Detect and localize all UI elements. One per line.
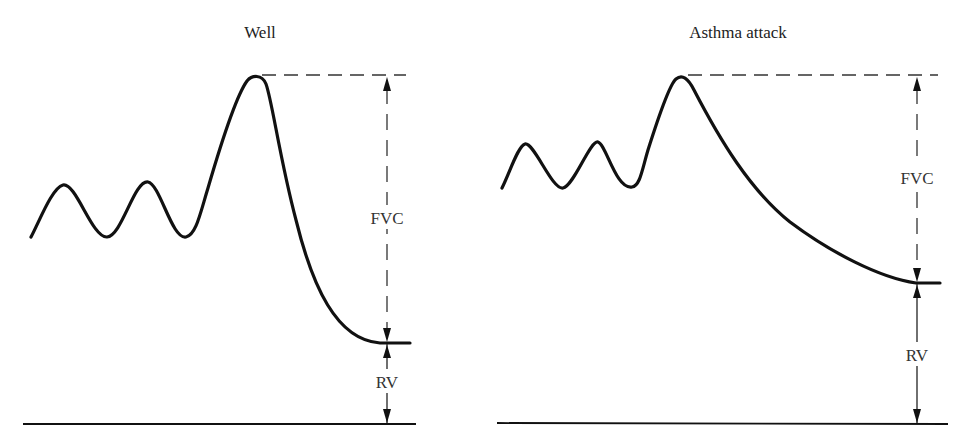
spirometry-diagram: Well FVC RV Asthma attack FVC xyxy=(0,0,967,448)
asthma-fvc-label: FVC xyxy=(900,169,933,188)
asthma-fvc-bottom-arrow-icon xyxy=(913,268,921,282)
asthma-baseline xyxy=(497,423,948,424)
well-breathing-curve xyxy=(31,76,410,343)
panel-asthma-attack: Asthma attack FVC RV xyxy=(497,23,948,424)
well-rv-label: RV xyxy=(376,373,399,392)
panel-title-well: Well xyxy=(244,23,276,42)
well-rv-top-arrow-icon xyxy=(383,345,391,358)
well-rv-bottom-arrow-icon xyxy=(383,409,391,423)
asthma-breathing-curve xyxy=(502,77,940,283)
asthma-rv-bottom-arrow-icon xyxy=(913,409,921,423)
well-fvc-top-arrow-icon xyxy=(383,77,391,91)
panel-well: Well FVC RV xyxy=(23,23,416,424)
asthma-rv-top-arrow-icon xyxy=(913,285,921,298)
well-fvc-bottom-arrow-icon xyxy=(383,328,391,342)
asthma-fvc-top-arrow-icon xyxy=(913,77,921,91)
asthma-rv-label: RV xyxy=(906,346,929,365)
panel-title-asthma-attack: Asthma attack xyxy=(689,23,787,42)
well-fvc-label: FVC xyxy=(370,209,403,228)
